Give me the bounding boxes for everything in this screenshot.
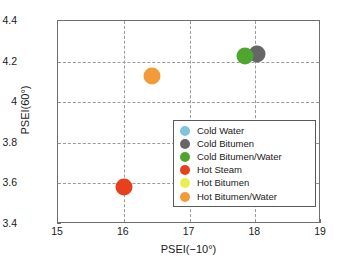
legend-item[interactable]: Cold Bitumen [178,137,310,150]
y-axis-tick-label: 4.4 [0,15,17,25]
legend-item[interactable]: Hot Bitumen/Water [178,190,310,203]
x-axis-tick-label: 17 [169,226,209,237]
legend-item-label: Hot Bitumen [197,178,249,188]
y-axis-label: PSEI(60°) [19,40,31,180]
data-point-marker [237,47,254,64]
legend-swatch-circle-icon [180,192,190,202]
legend-item-label: Cold Water [197,126,244,136]
legend-swatch-circle-icon [180,178,190,188]
y-axis-tick-label: 3.4 [0,218,17,228]
legend-item-label: Hot Steam [197,165,242,175]
y-axis-tick-mark [57,223,61,224]
gridline-horizontal [58,62,319,63]
gridline-horizontal [58,102,319,103]
legend-item-label: Cold Bitumen [197,139,254,149]
x-axis-tick-mark [320,219,321,223]
y-axis-tick-label: 4 [0,96,17,106]
y-axis-tick-label: 4.2 [0,56,17,66]
x-axis-tick-label: 18 [234,226,274,237]
legend-swatch-circle-icon [180,126,190,136]
y-axis-tick-label: 3.6 [0,177,17,187]
legend-item[interactable]: Cold Bitumen/Water [178,150,310,163]
x-axis-tick-label: 16 [103,226,143,237]
x-axis-tick-label: 19 [300,226,340,237]
legend-item[interactable]: Hot Bitumen [178,177,310,190]
data-point-marker [115,179,132,196]
legend-item-label: Hot Bitumen/Water [197,192,277,202]
chart-legend: Cold WaterCold BitumenCold Bitumen/Water… [173,120,316,207]
legend-item[interactable]: Cold Water [178,124,310,137]
legend-item-label: Cold Bitumen/Water [197,152,282,162]
x-axis-tick-label: 15 [37,226,77,237]
y-axis-tick-label: 3.8 [0,137,17,147]
scatter-chart-figure: 3.43.63.844.24.4 1516171819 PSEI(−10°) P… [0,0,342,269]
legend-swatch-circle-icon [180,152,190,162]
data-point-marker [144,67,161,84]
legend-swatch-circle-icon [180,139,190,149]
legend-item[interactable]: Hot Steam [178,164,310,177]
x-axis-label: PSEI(−10°) [57,243,320,255]
legend-swatch-circle-icon [180,165,190,175]
